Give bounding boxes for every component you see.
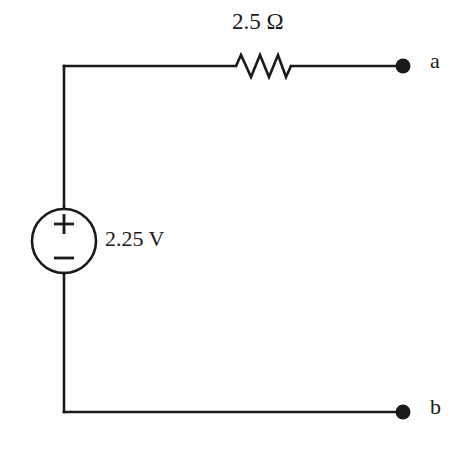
terminal-label-a: a xyxy=(430,50,440,72)
resistor-symbol xyxy=(236,55,291,77)
resistor-value-label: 2.5 Ω xyxy=(232,10,284,33)
circuit-diagram: 2.5 Ω 2.25 V a b xyxy=(0,0,471,450)
terminal-dot-a xyxy=(396,59,411,74)
terminal-label-b: b xyxy=(430,396,441,418)
voltage-source-value-label: 2.25 V xyxy=(105,228,165,250)
terminal-dot-b xyxy=(396,405,411,420)
circuit-schematic-canvas xyxy=(0,0,471,450)
